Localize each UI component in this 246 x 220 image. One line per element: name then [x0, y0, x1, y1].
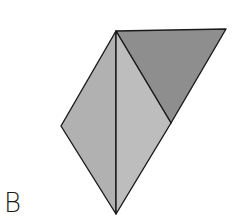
- figure-label: B: [4, 189, 21, 217]
- geometric-figure: [0, 0, 246, 220]
- left-triangle: [61, 31, 116, 214]
